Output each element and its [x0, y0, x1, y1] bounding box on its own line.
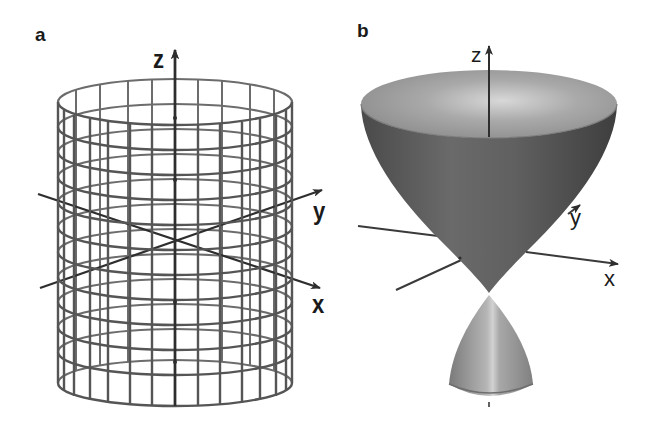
lower-nappe	[449, 295, 533, 396]
axis-label-z-b: z	[471, 43, 482, 67]
axis-x-b-front	[526, 252, 618, 264]
axis-label-y-b: y	[570, 205, 581, 231]
axis-label-x-b: x	[604, 266, 615, 292]
figure-canvas	[0, 0, 654, 430]
axis-label-y-a: y	[313, 196, 325, 227]
axis-label-x-a: x	[312, 289, 324, 320]
axis-y-b-back	[396, 256, 470, 290]
panel-a-cylinder	[38, 50, 322, 406]
axis-label-z-a: z	[153, 44, 164, 75]
